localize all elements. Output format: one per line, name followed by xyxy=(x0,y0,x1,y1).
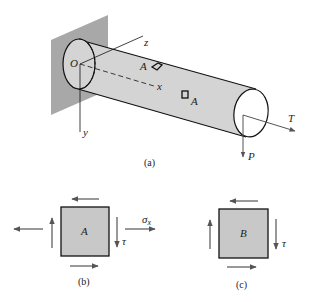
shear-label-b: τ xyxy=(122,235,127,247)
x-axis-label: x xyxy=(156,80,162,92)
shear-label-c: τ xyxy=(282,237,287,249)
load-label: P xyxy=(247,150,255,162)
element-b-label: B xyxy=(240,227,247,239)
panel-a: z x y O A A T P (a) xyxy=(51,15,295,169)
caption-c: (c) xyxy=(236,279,247,291)
panel-b: A τ σx (b) xyxy=(14,199,155,288)
caption-b: (b) xyxy=(78,276,90,288)
origin-label: O xyxy=(70,57,78,69)
point-a-label: A xyxy=(139,60,147,72)
stress-diagram: z x y O A A T P (a) A τ σx (b) B xyxy=(0,0,316,302)
z-axis-label: z xyxy=(143,36,149,48)
torque-label: T xyxy=(288,112,295,124)
element-a-label: A xyxy=(80,225,88,237)
normal-stress-label: σx xyxy=(142,213,151,227)
point-b-label: A xyxy=(190,95,198,107)
shaft-body xyxy=(78,40,257,137)
caption-a: (a) xyxy=(144,157,155,169)
panel-c: B τ (c) xyxy=(210,201,287,291)
y-axis-label: y xyxy=(82,126,88,138)
